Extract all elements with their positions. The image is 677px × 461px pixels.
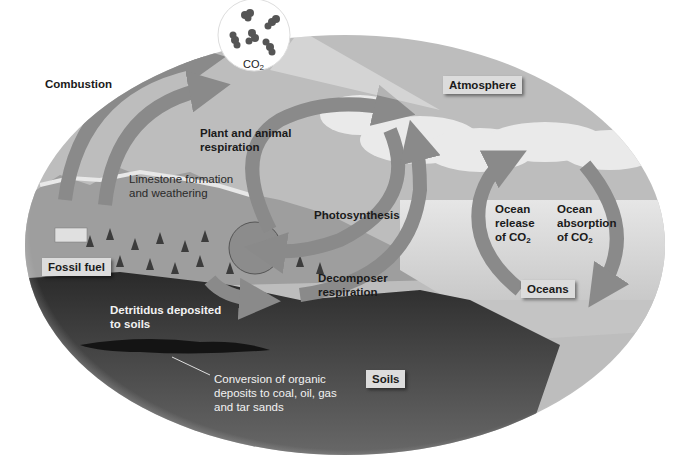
photosynthesis-label: Photosynthesis [314,208,400,222]
combustion-label: Combustion [45,77,112,91]
decomposer-respiration-label: Decomposer respiration [318,271,388,299]
limestone-label: Limestone formation and weathering [129,172,233,200]
soils-label: Soils [366,370,405,388]
fossil-fuel-label: Fossil fuel [42,258,111,276]
conversion-label: Conversion of organic deposits to coal, … [214,372,337,414]
plant-animal-respiration-label: Plant and animal respiration [200,126,291,154]
ocean-release-label: Ocean release of CO2 [495,202,535,248]
atmosphere-label: Atmosphere [443,76,522,94]
co2-label: CO2 [243,58,264,72]
ocean-absorption-label: Ocean absorption of CO2 [557,202,616,248]
detritus-label: Detritidus deposited to soils [110,303,221,331]
oceans-label: Oceans [521,280,575,298]
